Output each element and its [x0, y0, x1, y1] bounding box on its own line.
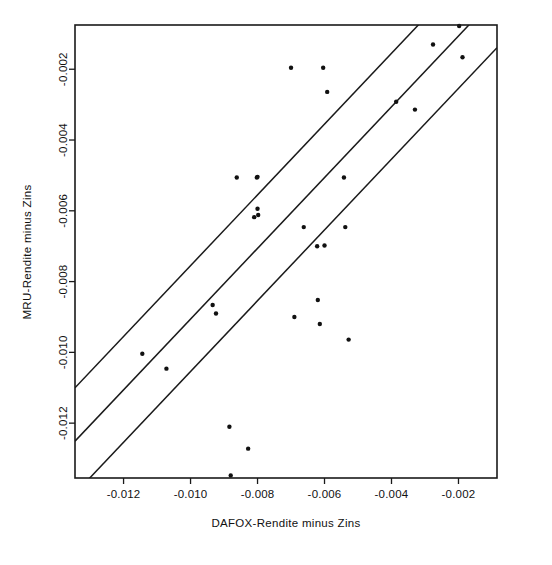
x-axis-ticks — [124, 478, 459, 484]
data-point — [322, 243, 326, 247]
plot-frame — [75, 25, 497, 478]
y-axis-tick-labels: -0.002-0.004-0.006-0.008-0.010-0.012 — [57, 52, 69, 440]
data-point — [289, 66, 293, 70]
y-axis-ticks — [69, 69, 75, 423]
data-point — [394, 100, 398, 104]
y-tick-label: -0.010 — [57, 335, 69, 369]
center-fit-line — [75, 0, 497, 441]
y-axis-title: MRU-Rendite minus Zins — [21, 184, 33, 319]
data-point — [325, 90, 329, 94]
y-tick-label: -0.002 — [57, 52, 69, 86]
y-tick-label: -0.006 — [57, 194, 69, 228]
data-point — [342, 175, 346, 179]
x-tick-label: -0.004 — [375, 488, 409, 500]
reference-lines-group — [75, 0, 497, 494]
data-point — [246, 446, 250, 450]
scatter-plot-figure: -0.012-0.010-0.008-0.006-0.004-0.002 -0.… — [0, 0, 552, 565]
data-point — [431, 42, 435, 46]
x-axis-tick-labels: -0.012-0.010-0.008-0.006-0.004-0.002 — [107, 488, 476, 500]
data-point — [318, 322, 322, 326]
x-tick-label: -0.012 — [107, 488, 141, 500]
y-tick-label: -0.008 — [57, 265, 69, 299]
data-point — [321, 66, 325, 70]
data-point — [316, 298, 320, 302]
data-point — [252, 215, 256, 219]
x-tick-label: -0.010 — [174, 488, 208, 500]
data-point — [292, 315, 296, 319]
x-tick-label: -0.008 — [241, 488, 275, 500]
data-point — [460, 55, 464, 59]
y-tick-label: -0.004 — [57, 123, 69, 157]
data-point — [255, 206, 259, 210]
data-point — [346, 337, 350, 341]
data-point — [255, 175, 259, 179]
data-point — [229, 473, 233, 477]
data-point — [164, 366, 168, 370]
y-tick-label: -0.012 — [57, 406, 69, 440]
chart-canvas: -0.012-0.010-0.008-0.006-0.004-0.002 -0.… — [0, 0, 552, 565]
data-point — [140, 352, 144, 356]
data-point — [413, 107, 417, 111]
data-point — [210, 303, 214, 307]
data-point — [256, 213, 260, 217]
data-points-group — [140, 24, 465, 478]
x-tick-label: -0.002 — [442, 488, 476, 500]
upper-band-line — [75, 0, 497, 388]
x-axis-title: DAFOX-Rendite minus Zins — [211, 517, 360, 529]
data-point — [302, 225, 306, 229]
data-point — [343, 225, 347, 229]
data-point — [315, 244, 319, 248]
data-point — [214, 311, 218, 315]
lower-band-line — [75, 48, 497, 494]
data-point — [235, 175, 239, 179]
x-tick-label: -0.006 — [308, 488, 342, 500]
data-point — [227, 424, 231, 428]
